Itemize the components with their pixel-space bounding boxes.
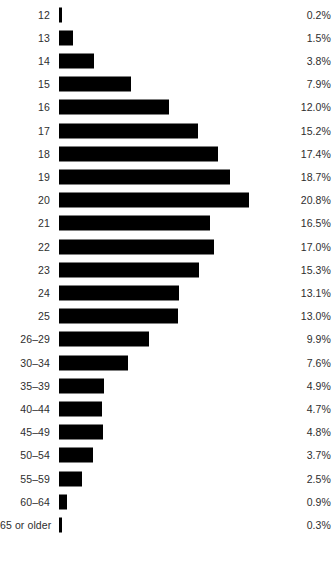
- category-label: 40–44: [0, 403, 50, 415]
- category-label: 17: [0, 125, 50, 137]
- bar-row: 2513.0%: [0, 305, 335, 328]
- bar-chart: 120.2%131.5%143.8%157.9%1612.0%1715.2%18…: [0, 0, 335, 562]
- bar-fill: [59, 378, 104, 393]
- category-label: 13: [0, 32, 50, 44]
- bar-row: 1817.4%: [0, 142, 335, 165]
- bar-fill: [59, 425, 103, 440]
- bar-fill: [59, 239, 214, 254]
- value-label: 0.9%: [255, 496, 331, 508]
- bar-fill: [59, 7, 62, 22]
- category-label: 19: [0, 171, 50, 183]
- value-label: 7.9%: [255, 78, 331, 90]
- bar-row: 157.9%: [0, 73, 335, 96]
- value-label: 4.7%: [255, 403, 331, 415]
- bar-row: 131.5%: [0, 26, 335, 49]
- bar-row: 2413.1%: [0, 281, 335, 304]
- category-label: 65 or older: [0, 519, 50, 531]
- category-label: 12: [0, 9, 50, 21]
- category-label: 16: [0, 101, 50, 113]
- value-label: 4.9%: [255, 380, 331, 392]
- bar-row: 50–543.7%: [0, 444, 335, 467]
- bar-fill: [59, 169, 230, 184]
- bar-row: 120.2%: [0, 3, 335, 26]
- bar-row: 2315.3%: [0, 258, 335, 281]
- value-label: 0.2%: [255, 9, 331, 21]
- value-label: 16.5%: [255, 217, 331, 229]
- bar-row: 2116.5%: [0, 212, 335, 235]
- bar-fill: [59, 77, 131, 92]
- category-label: 26–29: [0, 333, 50, 345]
- bar-fill: [59, 285, 179, 300]
- bar-row: 143.8%: [0, 49, 335, 72]
- category-label: 20: [0, 194, 50, 206]
- category-label: 21: [0, 217, 50, 229]
- bar-fill: [59, 146, 218, 161]
- category-label: 30–34: [0, 357, 50, 369]
- category-label: 15: [0, 78, 50, 90]
- bar-fill: [59, 309, 178, 324]
- category-label: 23: [0, 264, 50, 276]
- value-label: 17.4%: [255, 148, 331, 160]
- value-label: 18.7%: [255, 171, 331, 183]
- category-label: 55–59: [0, 473, 50, 485]
- bar-fill: [59, 448, 93, 463]
- bar-row: 2217.0%: [0, 235, 335, 258]
- value-label: 13.0%: [255, 310, 331, 322]
- value-label: 1.5%: [255, 32, 331, 44]
- category-label: 60–64: [0, 496, 50, 508]
- bar-fill: [59, 123, 198, 138]
- bar-fill: [59, 216, 210, 231]
- bar-row: 30–347.6%: [0, 351, 335, 374]
- category-label: 18: [0, 148, 50, 160]
- value-label: 12.0%: [255, 101, 331, 113]
- bar-row: 55–592.5%: [0, 467, 335, 490]
- bar-fill: [59, 332, 149, 347]
- value-label: 13.1%: [255, 287, 331, 299]
- value-label: 15.3%: [255, 264, 331, 276]
- bar-fill: [59, 53, 94, 68]
- bar-row: 35–394.9%: [0, 374, 335, 397]
- bar-row: 1918.7%: [0, 165, 335, 188]
- category-label: 25: [0, 310, 50, 322]
- bar-row: 65 or older0.3%: [0, 513, 335, 536]
- category-label: 50–54: [0, 449, 50, 461]
- category-label: 35–39: [0, 380, 50, 392]
- value-label: 17.0%: [255, 241, 331, 253]
- bar-fill: [59, 355, 128, 370]
- bar-row: 40–444.7%: [0, 397, 335, 420]
- bar-fill: [59, 100, 169, 115]
- value-label: 0.3%: [255, 519, 331, 531]
- value-label: 7.6%: [255, 357, 331, 369]
- value-label: 15.2%: [255, 125, 331, 137]
- bar-row: 60–640.9%: [0, 490, 335, 513]
- value-label: 2.5%: [255, 473, 331, 485]
- value-label: 20.8%: [255, 194, 331, 206]
- category-label: 24: [0, 287, 50, 299]
- value-label: 3.7%: [255, 449, 331, 461]
- value-label: 9.9%: [255, 333, 331, 345]
- bar-fill: [59, 494, 67, 509]
- bar-row: 1715.2%: [0, 119, 335, 142]
- bar-row: 26–299.9%: [0, 328, 335, 351]
- value-label: 3.8%: [255, 55, 331, 67]
- bar-fill: [59, 30, 73, 45]
- value-label: 4.8%: [255, 426, 331, 438]
- bar-fill: [59, 401, 102, 416]
- category-label: 22: [0, 241, 50, 253]
- bar-row: 45–494.8%: [0, 421, 335, 444]
- bar-fill: [59, 262, 199, 277]
- bar-row: 2020.8%: [0, 189, 335, 212]
- category-label: 14: [0, 55, 50, 67]
- bar-fill: [59, 471, 82, 486]
- bar-row: 1612.0%: [0, 96, 335, 119]
- bar-fill: [59, 517, 62, 532]
- category-label: 45–49: [0, 426, 50, 438]
- bar-fill: [59, 193, 249, 208]
